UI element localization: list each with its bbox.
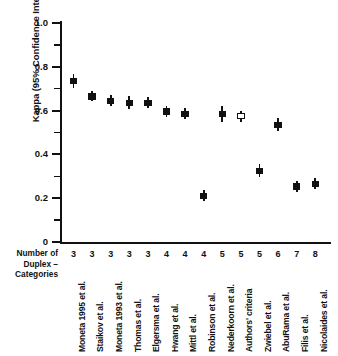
- y-tick-label: 0.6: [14, 106, 48, 116]
- study-label: Mittl et al.: [189, 314, 198, 352]
- duplex-category-value: 3: [65, 249, 83, 259]
- marker-filled: [144, 100, 151, 106]
- duplex-categories-row-label: Number ofDuplex –Categories: [0, 248, 58, 280]
- study-label: Elgersma et al.: [152, 294, 161, 352]
- y-tick-minor: [54, 219, 61, 221]
- duplex-category-value: 7: [288, 249, 306, 259]
- duplex-category-value: 5: [213, 249, 231, 259]
- y-tick-label: 0: [14, 237, 48, 247]
- y-tick-major: [52, 153, 61, 155]
- marker-filled: [219, 111, 226, 117]
- duplex-category-value: 3: [83, 249, 101, 259]
- y-tick-minor: [54, 132, 61, 134]
- x-axis-line: [60, 242, 331, 244]
- study-label: Authors' criteria: [245, 289, 254, 353]
- kappa-forest-chart: Kappa (95% Confidence Interval) 00.20.40…: [0, 0, 338, 356]
- duplex-category-value: 6: [269, 249, 287, 259]
- y-tick-label: 0.8: [14, 62, 48, 72]
- y-tick-minor: [54, 88, 61, 90]
- marker-filled: [88, 93, 95, 99]
- study-label: Nederkoorn et al.: [227, 284, 236, 352]
- duplex-category-value: 4: [195, 249, 213, 259]
- y-tick-major: [52, 241, 61, 243]
- marker-filled: [200, 193, 207, 199]
- row-header-line: Number of: [0, 248, 58, 259]
- row-header-line: Duplex –: [0, 259, 58, 270]
- y-tick-minor: [54, 176, 61, 178]
- y-tick-label: 0.2: [14, 193, 48, 203]
- study-label: Filis et al.: [301, 315, 310, 352]
- duplex-category-value: 5: [232, 249, 250, 259]
- study-label: Robinson et al.: [208, 293, 217, 352]
- duplex-category-value: 5: [251, 249, 269, 259]
- duplex-category-value: 4: [158, 249, 176, 259]
- study-label: Staikov et al.: [96, 302, 105, 352]
- y-tick-major: [52, 66, 61, 68]
- marker-filled: [107, 98, 114, 104]
- study-label: AbuRama et al.: [282, 292, 291, 352]
- duplex-category-value: 3: [120, 249, 138, 259]
- study-label: Moneta 1995 et al.: [78, 281, 87, 352]
- study-label: Nicolaides et al.: [320, 290, 329, 352]
- duplex-category-value: 3: [139, 249, 157, 259]
- duplex-category-value: 8: [306, 249, 324, 259]
- row-header-line: Categories: [0, 269, 58, 280]
- study-label: Hwang et al.: [171, 304, 180, 352]
- marker-filled: [312, 181, 319, 187]
- study-label: Zwiebel et al.: [264, 301, 273, 352]
- duplex-category-value: 4: [176, 249, 194, 259]
- y-tick-major: [52, 110, 61, 112]
- y-tick-label: 1.0: [14, 18, 48, 28]
- y-tick-major: [52, 22, 61, 24]
- marker-filled: [163, 108, 170, 114]
- marker-filled: [293, 183, 300, 189]
- marker-open: [237, 113, 244, 119]
- marker-filled: [181, 111, 188, 117]
- study-label: Moneta 1993 et al.: [115, 281, 124, 352]
- y-tick-label: 0.4: [14, 149, 48, 159]
- marker-filled: [274, 122, 281, 128]
- duplex-category-value: 3: [102, 249, 120, 259]
- marker-filled: [256, 168, 263, 174]
- marker-filled: [126, 100, 133, 106]
- marker-filled: [70, 78, 77, 84]
- y-tick-minor: [54, 44, 61, 46]
- y-tick-major: [52, 197, 61, 199]
- study-label: Thomas et al.: [134, 299, 143, 352]
